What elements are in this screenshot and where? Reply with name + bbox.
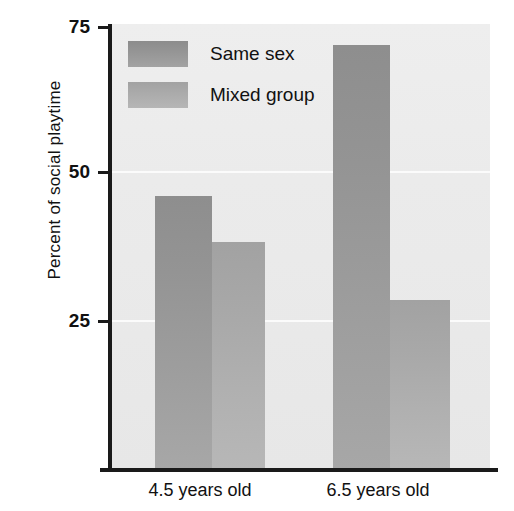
- y-tick-label-75: 75: [30, 16, 90, 38]
- bar-mixed-group-6-5: [390, 300, 450, 468]
- bar-same-sex-4-5: [155, 196, 212, 468]
- bar-chart-figure: Percent of social playtime Same sex Mixe…: [0, 0, 514, 511]
- y-tick-label-50: 50: [30, 161, 90, 183]
- bar-mixed-group-4-5: [212, 242, 265, 468]
- legend: Same sex Mixed group: [128, 40, 315, 122]
- y-tick-label-25: 25: [30, 310, 90, 332]
- plot-area: Same sex Mixed group: [112, 24, 490, 468]
- legend-item-same-sex: Same sex: [128, 40, 315, 68]
- legend-label-mixed-group: Mixed group: [210, 84, 315, 106]
- legend-label-same-sex: Same sex: [210, 43, 294, 65]
- gridline-50: [112, 171, 490, 173]
- x-category-label-4-5: 4.5 years old: [130, 480, 270, 501]
- bar-same-sex-6-5: [333, 45, 390, 468]
- y-tick-mark-75: [98, 26, 110, 29]
- y-tick-mark-50: [98, 171, 110, 174]
- y-tick-mark-25: [98, 320, 110, 323]
- legend-item-mixed-group: Mixed group: [128, 81, 315, 109]
- y-axis-line: [108, 24, 112, 470]
- legend-swatch-mixed-group: [128, 82, 188, 108]
- x-category-label-6-5: 6.5 years old: [308, 480, 448, 501]
- x-axis-line: [100, 468, 498, 472]
- legend-swatch-same-sex: [128, 41, 188, 67]
